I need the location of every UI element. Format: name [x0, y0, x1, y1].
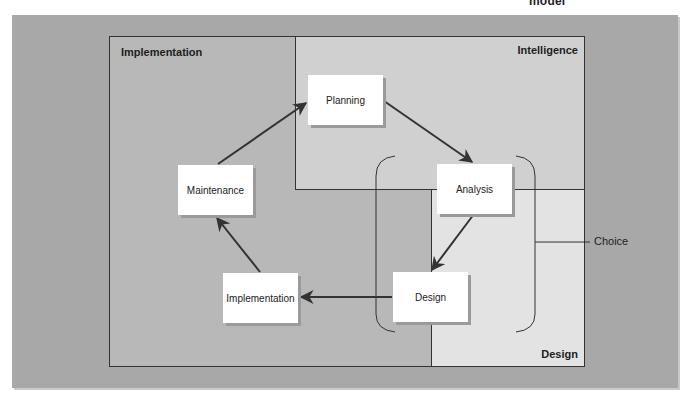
arrow-analysis-to-design — [432, 214, 474, 270]
node-implementation: Implementation — [223, 273, 298, 323]
node-planning: Planning — [308, 75, 383, 125]
node-analysis-label: Analysis — [456, 184, 493, 195]
node-maintenance: Maintenance — [178, 165, 253, 215]
node-analysis: Analysis — [437, 164, 512, 214]
arrow-planning-to-analysis — [384, 101, 472, 162]
node-maintenance-label: Maintenance — [187, 185, 244, 196]
node-design: Design — [393, 272, 468, 322]
choice-bracket-right — [516, 156, 535, 332]
choice-label: Choice — [594, 235, 628, 247]
node-design-label: Design — [415, 292, 446, 303]
node-planning-label: Planning — [326, 95, 365, 106]
arrow-maintenance-to-planning — [218, 103, 306, 164]
connectors-overlay — [0, 0, 694, 395]
arrow-implementation-to-maintenance — [217, 218, 260, 272]
node-implementation-label: Implementation — [226, 293, 294, 304]
